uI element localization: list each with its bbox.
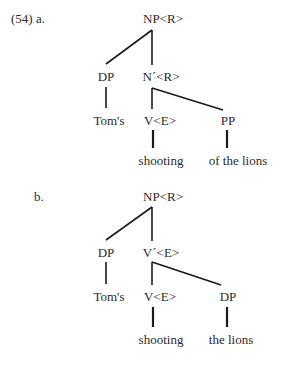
- edge-np-dp-a: [106, 30, 152, 64]
- tree-a-toms: Tom's: [93, 114, 124, 128]
- tree-a-dp: DP: [98, 70, 115, 84]
- tree-b-shooting: shooting: [139, 333, 184, 347]
- tree-b-toms: Tom's: [93, 290, 124, 304]
- tree-b-label: b.: [34, 190, 44, 204]
- tree-b-dp-complement: DP: [220, 290, 237, 304]
- edge-np-dp-b: [106, 207, 152, 240]
- tree-b-the-lions: the lions: [209, 333, 253, 347]
- tree-a-of-the-lions: of the lions: [209, 154, 268, 168]
- tree-a-root: NP<R>: [143, 12, 183, 26]
- tree-b-dp: DP: [98, 246, 115, 260]
- tree-edges: [0, 0, 281, 370]
- tree-a-shooting: shooting: [139, 154, 184, 168]
- tree-a-pp: PP: [221, 114, 235, 128]
- edge-nbar-pp-a: [152, 88, 223, 110]
- example-label: (54) a.: [11, 12, 45, 26]
- tree-a-label: a.: [36, 11, 45, 26]
- example-number: (54): [11, 11, 33, 26]
- edge-vbar-dp-b: [152, 262, 221, 285]
- tree-a-nbar: N´<R>: [142, 70, 179, 84]
- tree-b-vbar: V´<E>: [143, 246, 179, 260]
- tree-a-v: V<E>: [144, 114, 176, 128]
- tree-b-root: NP<R>: [143, 190, 183, 204]
- tree-b-v: V<E>: [144, 290, 176, 304]
